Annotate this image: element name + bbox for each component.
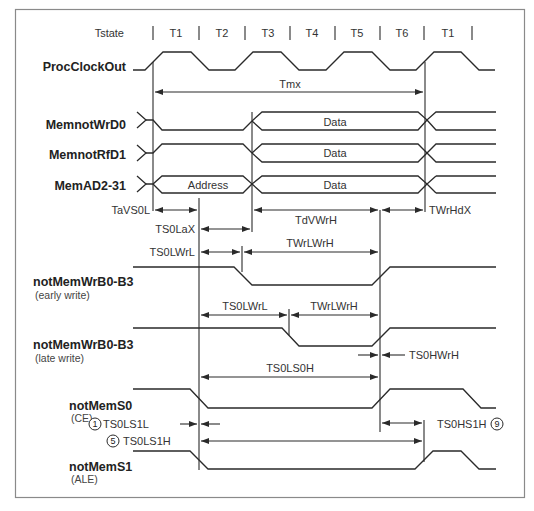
signal-notmemwr-early: notMemWrB0-B3 — [33, 275, 134, 289]
signal-notmemwr-late-sub: (late write) — [35, 352, 84, 364]
wave-notmems1 — [133, 451, 496, 469]
timing-ts0hwrh: TS0HWrH — [409, 349, 459, 361]
tstate-t5: T5 — [351, 27, 364, 39]
timing-ts0hs1h: TS0HS1H — [437, 418, 487, 430]
wave-memnot-rfd1 — [137, 144, 496, 162]
timing-ts0ls1l: TS0LS1L — [103, 418, 149, 430]
tstate-t2: T2 — [216, 27, 229, 39]
signal-notmemwr-early-sub: (early write) — [35, 289, 90, 301]
callout-5-num: 5 — [110, 436, 115, 446]
timing-twrlwrh-late: TWrLWrH — [310, 300, 358, 312]
wave-memnot-wrd0 — [137, 112, 496, 130]
timing-ts0lwrl-early: TS0LWrL — [150, 246, 195, 258]
wave-proc-clock — [133, 52, 495, 70]
timing-tavs0l: TaVS0L — [111, 204, 150, 216]
timing-tdvwrh: TdVWrH — [295, 214, 337, 226]
timing-ts0lax: TS0LaX — [155, 223, 195, 235]
wave-notmemwr-early — [133, 267, 496, 285]
wrd0-data-label: Data — [323, 116, 347, 128]
timing-diagram: Tstate T1 T2 T3 T4 T5 T6 T1 ProcClockOut… — [0, 0, 534, 511]
callout-9-num: 9 — [494, 419, 499, 429]
signal-notmems1-sub: (ALE) — [71, 473, 98, 485]
timing-ts0ls1h: TS0LS1H — [123, 435, 171, 447]
ad-address-label: Address — [188, 179, 229, 191]
tstate-label: Tstate — [95, 27, 124, 39]
wave-notmems0 — [133, 389, 496, 408]
signal-notmemwr-late: notMemWrB0-B3 — [33, 338, 134, 352]
callout-1-num: 1 — [92, 419, 97, 429]
tstate-t6: T6 — [396, 27, 409, 39]
rfd1-data-label: Data — [323, 147, 347, 159]
signal-notmems0: notMemS0 — [69, 399, 132, 413]
timing-ts0ls0h: TS0LS0H — [266, 362, 314, 374]
timing-ts0lwrl-late: TS0LWrL — [222, 300, 267, 312]
tstate-t4: T4 — [306, 27, 319, 39]
timing-twrlwrh-early: TWrLWrH — [286, 237, 334, 249]
signal-memnot-rfd1: MemnotRfD1 — [49, 148, 126, 162]
wave-notmemwr-late — [133, 328, 496, 346]
timing-tmx: Tmx — [279, 78, 301, 90]
tstate-t1-next: T1 — [442, 27, 455, 39]
signal-proc-clock-out: ProcClockOut — [43, 60, 127, 74]
reference-lines — [153, 62, 425, 470]
tstate-t3: T3 — [262, 27, 275, 39]
signal-notmems1: notMemS1 — [69, 460, 132, 474]
signal-memnot-wrd0: MemnotWrD0 — [46, 118, 126, 132]
timing-twrhdx: TWrHdX — [429, 204, 472, 216]
ad-data-label: Data — [323, 179, 347, 191]
tstate-t1: T1 — [170, 27, 183, 39]
signal-mem-ad: MemAD2-31 — [54, 179, 126, 193]
